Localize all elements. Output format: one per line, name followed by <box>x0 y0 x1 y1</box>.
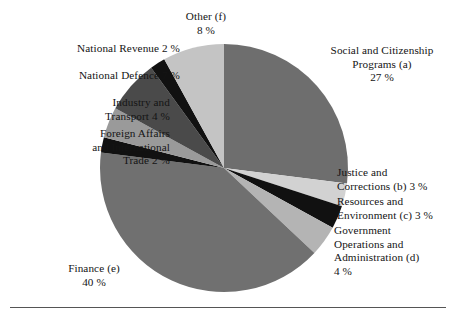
slice-label-finance: Finance (e) 40 % <box>30 262 158 289</box>
slice-label-industry-and-transport: Industry and Transport 4 % <box>18 96 170 123</box>
footer-divider <box>10 307 446 308</box>
slice-label-social-and-citizenship-programs: Social and Citizenship Programs (a) 27 % <box>311 44 453 85</box>
slice-label-national-defence: National Defence 7 % <box>12 69 180 83</box>
slice-label-government-operations-and-administration: Government Operations and Administration… <box>334 224 456 278</box>
slice-label-justice-and-corrections: Justice and Corrections (b) 3 % <box>337 166 456 193</box>
slice-label-foreign-affairs-and-international-trade: Foreign Affairs and International Trade … <box>4 127 170 168</box>
slice-label-national-revenue: National Revenue 2 % <box>14 42 180 56</box>
pie-chart-figure: Other (f) 8 % National Revenue 2 % Natio… <box>0 0 456 317</box>
slice-label-other: Other (f) 8 % <box>146 10 266 37</box>
slice-label-resources-and-environment: Resources and Environment (c) 3 % <box>337 195 456 222</box>
